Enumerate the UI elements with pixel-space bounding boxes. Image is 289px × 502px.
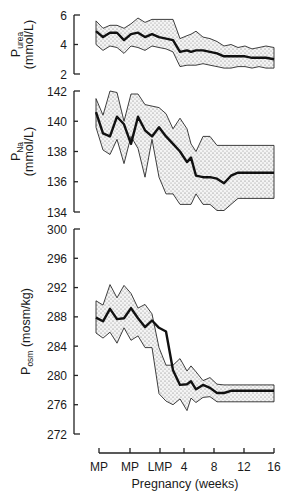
y-tick-label: 2 xyxy=(60,68,67,82)
y-tick-label: 142 xyxy=(47,85,67,99)
panel-osmolality: 300296292288284280276272Posm (mosm/kg) xyxy=(19,223,274,442)
y-tick-label: 134 xyxy=(47,206,67,220)
svg-text:(mmol/L): (mmol/L) xyxy=(22,20,36,69)
y-tick-label: 276 xyxy=(47,398,67,412)
panel-urea: 642Purea(mmol/L) xyxy=(9,9,274,82)
y-tick-label: 288 xyxy=(47,310,67,324)
x-axis: MPMPLMP481216Pregnancy (weeks) xyxy=(90,448,281,491)
svg-text:(mmol/L): (mmol/L) xyxy=(22,127,36,176)
x-tick-label: MP xyxy=(90,460,108,474)
y-axis-title: PNa(mmol/L) xyxy=(9,127,36,176)
y-tick-label: 4 xyxy=(60,38,67,52)
x-tick-label: 8 xyxy=(211,460,218,474)
y-axis-title: Purea(mmol/L) xyxy=(9,20,36,69)
chart-panels: 642Purea(mmol/L)142140138136134PNa(mmol/… xyxy=(9,9,274,442)
x-axis-title: Pregnancy (weeks) xyxy=(132,477,239,491)
figure: 642Purea(mmol/L)142140138136134PNa(mmol/… xyxy=(0,0,289,502)
y-tick-label: 292 xyxy=(47,281,67,295)
y-tick-label: 136 xyxy=(47,175,67,189)
y-tick-label: 138 xyxy=(47,145,67,159)
x-tick-label: 12 xyxy=(237,460,251,474)
x-tick-label: LMP xyxy=(148,460,173,474)
svg-text:Posm (mosm/kg): Posm (mosm/kg) xyxy=(19,288,35,375)
y-tick-label: 284 xyxy=(47,340,67,354)
y-tick-label: 280 xyxy=(47,369,67,383)
y-tick-label: 140 xyxy=(47,115,67,129)
panel-sodium: 142140138136134PNa(mmol/L) xyxy=(9,85,274,220)
x-tick-label: MP xyxy=(121,460,139,474)
x-tick-label: 16 xyxy=(267,460,281,474)
y-tick-label: 296 xyxy=(47,252,67,266)
y-tick-label: 6 xyxy=(60,9,67,23)
y-axis-title: Posm (mosm/kg) xyxy=(19,288,35,375)
range-band xyxy=(96,18,274,68)
x-tick-label: 4 xyxy=(181,460,188,474)
y-tick-label: 300 xyxy=(47,223,67,237)
y-tick-label: 272 xyxy=(47,428,67,442)
range-band xyxy=(96,91,274,211)
